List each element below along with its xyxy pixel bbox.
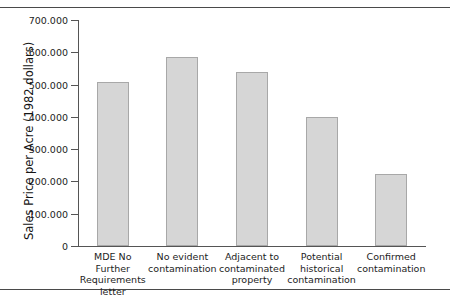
x-axis-category-label: Adjacent to contaminated property [217, 251, 287, 286]
y-axis-tick [71, 149, 78, 150]
y-axis-tick-label: 600.000 [29, 47, 68, 58]
x-axis-category-label: Confirmed contamination [356, 251, 426, 274]
x-axis-line [78, 246, 426, 247]
bar [375, 174, 407, 246]
y-axis-tick [71, 52, 78, 53]
figure-container: Sales Price per Acre (1982 dollars) 0100… [0, 0, 450, 297]
x-axis-category-label: MDE No Further Requirements letter [78, 251, 148, 297]
bar [306, 117, 338, 246]
y-axis-tick-label: 200.000 [29, 176, 68, 187]
y-axis-tick [71, 181, 78, 182]
y-axis-tick-label: 700.000 [29, 15, 68, 26]
y-axis-tick [71, 85, 78, 86]
bar [236, 72, 268, 246]
y-axis-tick [71, 246, 78, 247]
y-axis-tick [71, 117, 78, 118]
bar [166, 57, 198, 246]
y-axis-tick-label: 300.000 [29, 144, 68, 155]
x-axis-category-label: Potential historical contamination [287, 251, 357, 286]
y-axis-tick [71, 214, 78, 215]
y-axis-tick-label: 0 [62, 241, 68, 252]
x-axis-category-label: No evident contamination [148, 251, 218, 274]
y-axis-tick [71, 20, 78, 21]
y-axis-tick-label: 100.000 [29, 208, 68, 219]
bar [97, 82, 129, 246]
y-axis-tick-label: 500.000 [29, 79, 68, 90]
y-axis-line [78, 20, 79, 247]
y-axis-tick-labels: 0100.000200.000300.000400.000500.000600.… [0, 0, 68, 297]
y-axis-tick-label: 400.000 [29, 111, 68, 122]
